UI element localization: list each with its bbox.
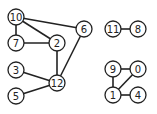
node-label: 6 bbox=[81, 24, 87, 35]
node-label: 1 bbox=[110, 90, 116, 101]
node-4: 4 bbox=[130, 87, 146, 103]
node-3: 3 bbox=[8, 62, 24, 78]
node-8: 8 bbox=[130, 21, 146, 37]
node-label: 8 bbox=[135, 24, 141, 35]
graph-diagram: 1072631251189014 bbox=[0, 0, 157, 114]
node-label: 10 bbox=[10, 12, 23, 23]
node-12: 12 bbox=[49, 75, 65, 91]
node-label: 5 bbox=[13, 91, 19, 102]
node-7: 7 bbox=[8, 35, 24, 51]
node-10: 10 bbox=[8, 9, 24, 25]
node-label: 9 bbox=[110, 64, 116, 75]
node-0: 0 bbox=[130, 61, 146, 77]
node-label: 4 bbox=[135, 90, 141, 101]
node-5: 5 bbox=[8, 88, 24, 104]
node-label: 3 bbox=[13, 65, 19, 76]
node-label: 2 bbox=[54, 38, 60, 49]
node-2: 2 bbox=[49, 35, 65, 51]
node-label: 0 bbox=[135, 64, 141, 75]
node-label: 11 bbox=[107, 24, 120, 35]
node-1: 1 bbox=[105, 87, 121, 103]
node-11: 11 bbox=[105, 21, 121, 37]
nodes: 1072631251189014 bbox=[8, 9, 146, 104]
node-label: 7 bbox=[13, 38, 19, 49]
node-9: 9 bbox=[105, 61, 121, 77]
node-label: 12 bbox=[51, 78, 64, 89]
node-6: 6 bbox=[76, 21, 92, 37]
